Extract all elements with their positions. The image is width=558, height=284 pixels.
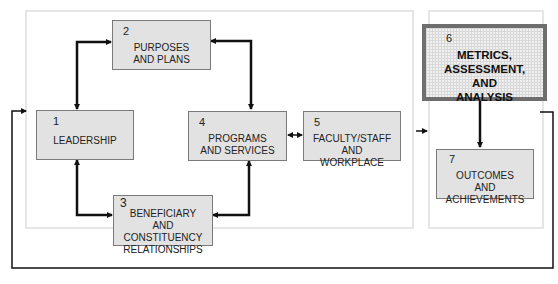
box-outcomes-and-achievements: 7 OUTCOMES AND ACHIEVEMENTS: [436, 149, 534, 199]
arrow-1-3: [77, 160, 112, 215]
arrow-2-4: [211, 41, 251, 109]
box-faculty-staff-and-workplace: 5 FACULTY/STAFF AND WORKPLACE: [303, 111, 401, 161]
box-programs-and-services: 4 PROGRAMS AND SERVICES: [188, 111, 287, 161]
box-label: METRICS, ASSESSMENT, AND ANALYSIS: [426, 48, 543, 104]
box-purposes-and-plans: 2 PURPOSES AND PLANS: [112, 20, 211, 70]
box-label: FACULTY/STAFF AND WORKPLACE: [304, 133, 400, 169]
box-metrics-assessment-and-analysis: 6 METRICS, ASSESSMENT, AND ANALYSIS: [422, 24, 547, 101]
box-label: BENEFICIARY AND CONSTITUENCY RELATIONSHI…: [114, 208, 212, 256]
box-number: 2: [123, 25, 129, 37]
box-label: PURPOSES AND PLANS: [113, 42, 210, 66]
box-number: 6: [446, 32, 452, 44]
box-number: 5: [314, 116, 320, 128]
arrow-1-2: [77, 42, 111, 109]
box-label: LEADERSHIP: [37, 135, 133, 147]
box-number: 4: [199, 116, 205, 128]
box-label: OUTCOMES AND ACHIEVEMENTS: [437, 170, 533, 206]
box-leadership: 1 LEADERSHIP: [36, 110, 134, 160]
box-label: PROGRAMS AND SERVICES: [189, 133, 286, 157]
box-beneficiary-and-constituency-relationships: 3 BENEFICIARY AND CONSTITUENCY RELATIONS…: [113, 195, 213, 246]
arrow-3-4: [213, 161, 249, 215]
box-number: 7: [449, 153, 455, 165]
box-number: 1: [53, 115, 59, 127]
